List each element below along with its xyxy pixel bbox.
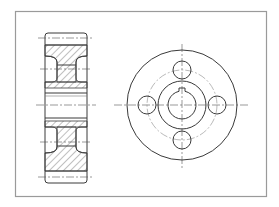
hatch-upper-hub bbox=[45, 82, 87, 88]
front-view bbox=[114, 44, 248, 170]
technical-drawing bbox=[0, 0, 279, 207]
sectional-side-view bbox=[36, 33, 96, 183]
web-curve-lower-right bbox=[76, 127, 87, 153]
web-curve-lower-left bbox=[45, 127, 57, 153]
hatch-upper-rim bbox=[45, 45, 87, 82]
hatch-lower-hub bbox=[45, 121, 87, 127]
hatch-lower-rim bbox=[45, 127, 87, 171]
